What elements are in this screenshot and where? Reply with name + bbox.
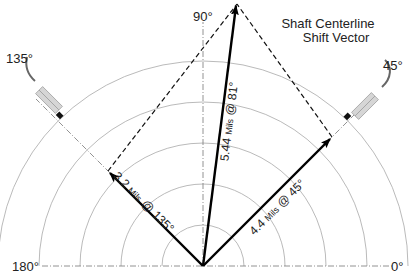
title-line-2: Shift Vector: [303, 30, 370, 45]
probe-tip-icon: [343, 112, 351, 120]
probe-tip-icon: [56, 111, 64, 119]
label-180: 180°: [12, 259, 39, 274]
label-90: 90°: [193, 9, 213, 24]
vector-135-label: 3.2 Mils @ 135°: [111, 169, 177, 235]
polar-rings: [0, 61, 408, 266]
svg-text:4.4 Mils @ 4: 4.4 Mils @ 45°: [246, 176, 308, 238]
probe-135-icon: [26, 57, 63, 119]
svg-text:3.2 Mils @ 1: 3.2 Mils @ 135°: [111, 169, 177, 235]
title-line-1: Shaft Centerline: [281, 16, 374, 31]
shaft-centerline-diagram: 90° 135° 45° 180° 0° Shaft Centerline Sh…: [0, 0, 410, 277]
label-135: 135°: [6, 51, 33, 66]
axes: [36, 22, 392, 266]
label-0: 0°: [391, 259, 403, 274]
vector-45-label: 4.4 Mils @ 45°: [246, 176, 308, 238]
label-45: 45°: [383, 58, 403, 73]
